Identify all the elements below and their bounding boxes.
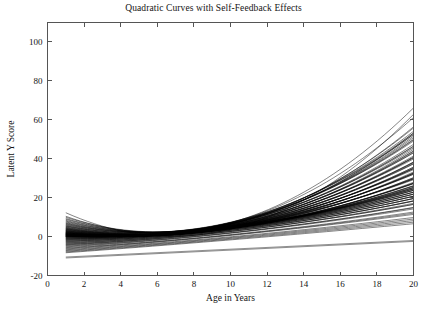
x-tick-labels-group: 02468101214161820 xyxy=(45,279,418,289)
x-tick-label: 8 xyxy=(192,279,197,289)
trajectory-line xyxy=(66,133,414,232)
x-tick-label: 12 xyxy=(263,279,272,289)
y-tick-label: 60 xyxy=(34,115,44,125)
y-tick-label: -20 xyxy=(31,271,43,281)
y-tick-label: 80 xyxy=(34,76,44,86)
trajectory-lines-group xyxy=(66,108,414,258)
x-tick-label: 2 xyxy=(82,279,87,289)
trajectory-line xyxy=(66,138,414,233)
y-tick-label: 0 xyxy=(38,232,43,242)
x-tick-label: 16 xyxy=(336,279,346,289)
trajectory-line xyxy=(66,139,414,232)
x-tick-label: 0 xyxy=(45,279,50,289)
y-tick-label: 100 xyxy=(29,37,43,47)
x-tick-label: 4 xyxy=(118,279,123,289)
x-tick-label: 6 xyxy=(155,279,160,289)
x-tick-label: 20 xyxy=(409,279,419,289)
x-tick-label: 10 xyxy=(226,279,236,289)
y-tick-label: 40 xyxy=(34,154,44,164)
y-tick-labels-group: -20020406080100 xyxy=(29,37,43,281)
y-tick-label: 20 xyxy=(34,193,44,203)
y-axis-title: Latent Y Score xyxy=(6,121,16,178)
trajectory-line xyxy=(66,117,414,231)
x-axis-title: Age in Years xyxy=(206,293,255,303)
plot-canvas: 02468101214161820 -20020406080100 Age in… xyxy=(0,0,427,314)
chart-figure: Quadratic Curves with Self-Feedback Effe… xyxy=(0,0,427,314)
x-tick-label: 18 xyxy=(372,279,382,289)
x-tick-label: 14 xyxy=(299,279,309,289)
trajectory-line-outlier xyxy=(66,241,414,258)
